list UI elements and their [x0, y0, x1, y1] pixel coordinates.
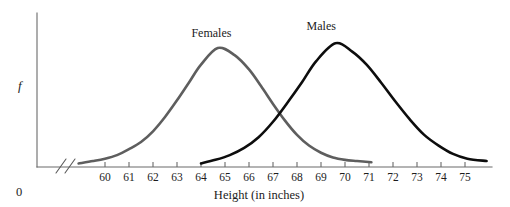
distribution-chart: 60616263646566676869707172737475 0 f Hei… [0, 0, 510, 207]
x-tick-label: 66 [236, 172, 262, 184]
x-axis-ticks [105, 162, 465, 167]
curve-label-females: Females [191, 27, 231, 39]
curve-males [201, 43, 487, 163]
x-tick-label: 61 [116, 172, 142, 184]
y-axis-label: f [18, 79, 22, 92]
density-curves [79, 43, 487, 163]
x-tick-label: 71 [356, 172, 382, 184]
x-tick-label: 64 [188, 172, 214, 184]
x-tick-label: 70 [332, 172, 358, 184]
x-axis-label: Height (in inches) [179, 189, 339, 202]
origin-label: 0 [16, 186, 22, 199]
x-tick-label: 60 [92, 172, 118, 184]
x-tick-label: 73 [404, 172, 430, 184]
x-tick-label: 67 [260, 172, 286, 184]
x-tick-label: 65 [212, 172, 238, 184]
x-tick-label: 72 [380, 172, 406, 184]
x-tick-label: 69 [308, 172, 334, 184]
curve-females [79, 48, 372, 164]
curve-label-males: Males [307, 20, 336, 32]
axis-break-icon [56, 159, 75, 173]
x-tick-label: 63 [164, 172, 190, 184]
x-tick-label: 74 [428, 172, 454, 184]
x-tick-label: 75 [452, 172, 478, 184]
x-tick-label: 62 [140, 172, 166, 184]
x-tick-label: 68 [284, 172, 310, 184]
